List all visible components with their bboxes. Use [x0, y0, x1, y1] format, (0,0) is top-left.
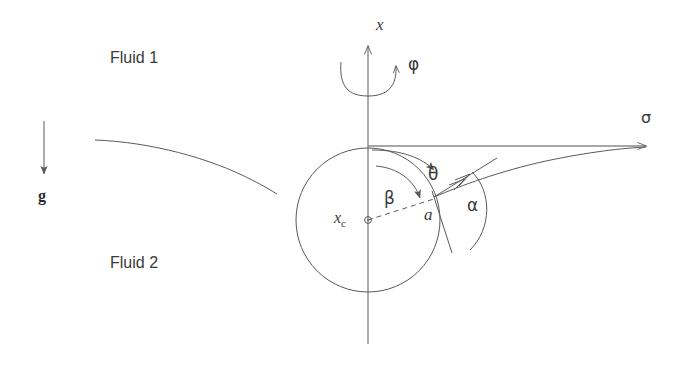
center-subscript: c [341, 217, 346, 229]
interface-tangent-line [434, 158, 497, 197]
beta-angle-arc [376, 166, 420, 198]
gravity-label: g [38, 188, 46, 204]
fluid-1-label: Fluid 1 [110, 50, 158, 66]
beta-angle-label: β [384, 190, 395, 207]
interface-curve-left [95, 140, 277, 194]
sphere-tangent-line [432, 191, 452, 253]
figure-container: Fluid 1 Fluid 2 g x φ θ β α a σ xc [0, 0, 676, 365]
x-axis-label: x [376, 16, 384, 33]
phi-angle-label: φ [408, 56, 419, 73]
diagram-canvas [0, 0, 676, 365]
center-label: xc [334, 210, 346, 229]
sigma-label: σ [641, 110, 651, 126]
fluid-2-label: Fluid 2 [110, 255, 158, 271]
alpha-angle-label: α [467, 197, 478, 214]
radius-label: a [424, 206, 433, 223]
theta-angle-label: θ [428, 166, 438, 183]
interface-curve-right [434, 147, 646, 197]
